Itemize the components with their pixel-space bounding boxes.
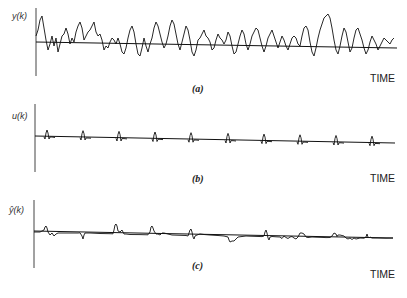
pulses-u [44,130,380,146]
baseline-c [34,231,393,238]
xlabel-a: TIME [370,72,395,84]
caption-b: (b) [192,173,204,185]
xlabel-c: TIME [370,268,395,280]
caption-c: (c) [192,260,203,272]
ylabel-b: u(k) [12,111,28,121]
figure-canvas: y(k) TIME (a) u(k) (b) TIME ŷ(k) [0,0,407,298]
baseline-b [35,136,395,143]
panel-c: ŷ(k) (c) TIME [8,200,395,280]
ylabel-c: ŷ(k) [8,205,24,215]
ylabel-a: y(k) [11,11,27,21]
reference-line-a [36,42,397,48]
signal-y [36,14,394,56]
panel-a: y(k) TIME (a) [11,8,397,95]
xlabel-b: TIME [370,172,395,184]
signal-yhat [34,224,393,242]
caption-a: (a) [192,83,204,95]
panel-b: u(k) (b) TIME [12,104,395,185]
